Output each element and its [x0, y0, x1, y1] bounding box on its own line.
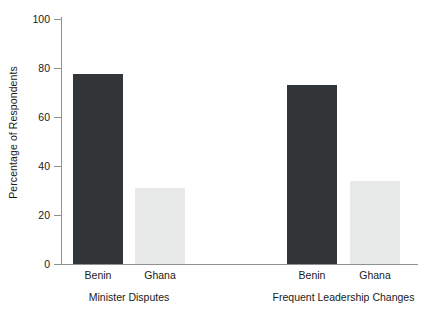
bar-benin-frequent-leadership-changes[interactable]	[287, 85, 337, 264]
y-tick-60	[54, 117, 61, 118]
bar-label-benin-2: Benin	[277, 268, 347, 282]
y-tick-label-20: 20	[2, 210, 50, 220]
bar-benin-minister-disputes[interactable]	[73, 74, 123, 264]
y-tick-label-wrap-40: 40	[0, 161, 50, 171]
y-tick-label-wrap-60: 60	[0, 112, 50, 122]
group-label-1: Minister Disputes	[29, 290, 229, 304]
y-tick-label-wrap-20: 20	[0, 210, 50, 220]
bar-label-ghana-1: Ghana	[125, 268, 195, 282]
y-tick-0	[54, 264, 61, 265]
y-axis-line	[61, 17, 62, 265]
y-tick-label-wrap-80: 80	[0, 63, 50, 73]
bar-ghana-frequent-leadership-changes[interactable]	[350, 181, 400, 264]
y-tick-label-0: 0	[2, 259, 50, 269]
y-tick-label-80: 80	[2, 63, 50, 73]
x-axis-line	[61, 264, 418, 265]
y-tick-100	[54, 19, 61, 20]
y-tick-40	[54, 166, 61, 167]
y-tick-label-40: 40	[2, 161, 50, 171]
group-label-2: Frequent Leadership Changes	[244, 290, 430, 304]
y-axis-title: Percentage of Respondents	[4, 0, 22, 265]
bar-label-benin-1: Benin	[63, 268, 133, 282]
bar-chart: Percentage of Respondents 100806040200 B…	[0, 0, 430, 315]
bar-label-ghana-2: Ghana	[340, 268, 410, 282]
y-tick-20	[54, 215, 61, 216]
y-tick-label-wrap-0: 0	[0, 259, 50, 269]
y-tick-label-wrap-100: 100	[0, 14, 50, 24]
y-tick-80	[54, 68, 61, 69]
y-tick-label-60: 60	[2, 112, 50, 122]
y-tick-label-100: 100	[2, 14, 50, 24]
bar-ghana-minister-disputes[interactable]	[135, 188, 185, 264]
